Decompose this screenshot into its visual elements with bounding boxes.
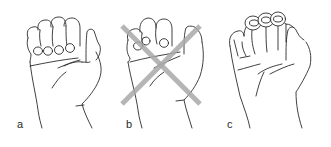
panel-a: a [0,0,110,147]
panel-b: b [110,0,220,147]
panel-c: c [220,0,330,147]
panel-label-c: c [227,119,233,130]
panel-label-a: a [17,119,23,130]
hand-position-figure: a [0,0,331,147]
panel-label-b: b [126,119,132,130]
incorrect-cross-mark [122,26,200,104]
hand-c-drawing [220,0,330,147]
